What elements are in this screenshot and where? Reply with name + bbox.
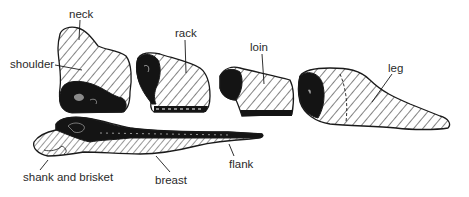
label-shoulder: shoulder bbox=[10, 59, 54, 71]
cut-breast-flank-shank bbox=[34, 117, 263, 156]
label-rack: rack bbox=[175, 28, 197, 40]
label-leg: leg bbox=[388, 63, 403, 75]
label-flank: flank bbox=[229, 159, 253, 171]
cut-loin bbox=[220, 67, 293, 116]
lamb-cuts-diagram: neck shoulder rack loin leg shank and br… bbox=[0, 0, 469, 197]
cut-rack bbox=[137, 53, 211, 112]
label-loin: loin bbox=[250, 42, 268, 54]
leader-flank bbox=[229, 144, 234, 156]
label-neck: neck bbox=[69, 9, 93, 21]
leader-breast bbox=[156, 156, 170, 172]
label-shank-and-brisket: shank and brisket bbox=[23, 172, 113, 184]
cut-neck-shoulder bbox=[58, 27, 131, 113]
leader-shank-and-brisket bbox=[40, 160, 48, 170]
label-breast: breast bbox=[155, 175, 187, 187]
